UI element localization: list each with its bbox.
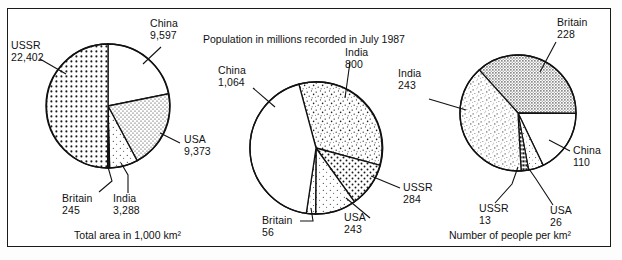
pie-chart-figure: USSR22,402 China9,597 USA9,373 India3,28… xyxy=(0,0,622,260)
label-den-usa-name: USA xyxy=(550,204,572,216)
label-area-india-name: India xyxy=(113,192,136,204)
label-pop-ussr-name: USSR xyxy=(403,181,433,193)
label-den-india-name: India xyxy=(398,67,421,79)
label-area-usa-value: 9,373 xyxy=(184,145,211,157)
caption-density: Number of people per km² xyxy=(430,229,590,241)
label-den-china: China110 xyxy=(573,145,601,169)
label-pop-india-value: 800 xyxy=(345,58,363,70)
caption-total-area: Total area in 1,000 km² xyxy=(55,229,200,241)
label-den-britain: Britain228 xyxy=(557,17,587,41)
label-den-china-name: China xyxy=(573,144,601,156)
label-area-britain: Britain245 xyxy=(62,193,92,217)
label-den-britain-name: Britain xyxy=(557,16,587,28)
label-area-china-value: 9,597 xyxy=(150,29,177,41)
label-den-ussr-name: USSR xyxy=(479,202,509,214)
label-den-ussr: USSR13 xyxy=(479,203,509,227)
label-area-china: China9,597 xyxy=(150,18,178,42)
label-pop-britain-name: Britain xyxy=(262,214,292,226)
label-den-britain-value: 228 xyxy=(557,28,575,40)
label-area-usa-name: USA xyxy=(184,133,206,145)
label-pop-usa-value: 243 xyxy=(344,223,362,235)
label-pop-ussr: USSR284 xyxy=(403,182,433,206)
figure-title: Population in millions recorded in July … xyxy=(203,33,405,45)
label-den-usa: USA26 xyxy=(550,205,572,229)
label-pop-china: China1,064 xyxy=(218,65,246,89)
label-pop-britain: Britain56 xyxy=(262,215,292,239)
label-area-ussr-name: USSR xyxy=(11,39,41,51)
label-pop-india-name: India xyxy=(345,46,368,58)
label-area-britain-value: 245 xyxy=(62,204,80,216)
label-area-britain-name: Britain xyxy=(62,192,92,204)
label-den-india-value: 243 xyxy=(398,79,416,91)
label-area-usa: USA9,373 xyxy=(184,134,211,158)
label-pop-usa: USA243 xyxy=(344,212,366,236)
label-den-china-value: 110 xyxy=(573,156,590,168)
label-den-ussr-value: 13 xyxy=(479,214,491,226)
label-pop-india: India800 xyxy=(345,47,368,71)
label-pop-china-name: China xyxy=(218,64,246,76)
label-area-india: India3,288 xyxy=(113,193,140,217)
label-area-ussr-value: 22,402 xyxy=(11,51,44,63)
label-pop-ussr-value: 284 xyxy=(403,193,421,205)
label-den-usa-value: 26 xyxy=(550,216,562,228)
label-area-china-name: China xyxy=(150,17,178,29)
label-den-india: India243 xyxy=(398,68,421,92)
label-area-india-value: 3,288 xyxy=(113,204,140,216)
label-area-ussr: USSR22,402 xyxy=(11,40,44,64)
label-pop-usa-name: USA xyxy=(344,211,366,223)
label-pop-china-value: 1,064 xyxy=(218,76,245,88)
label-pop-britain-value: 56 xyxy=(262,226,274,238)
